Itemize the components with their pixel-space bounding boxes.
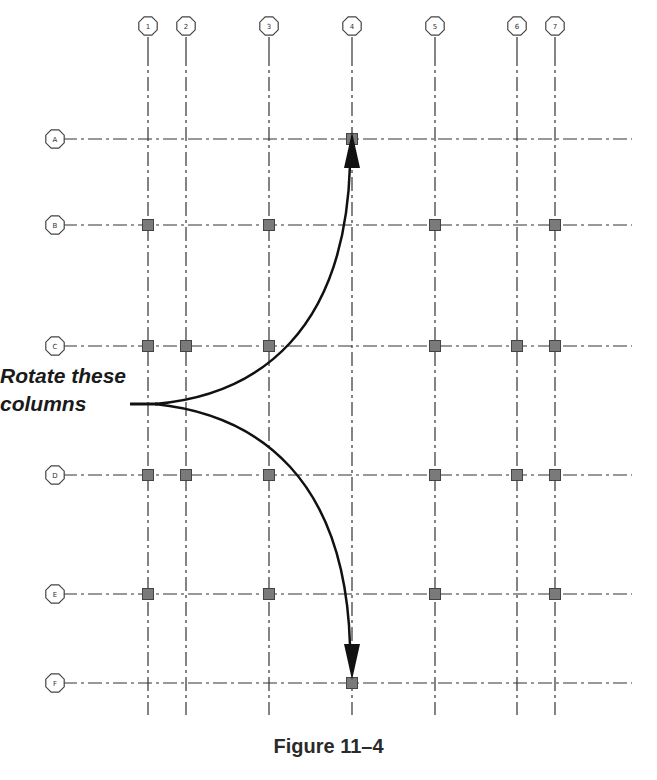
grid-bubble-label: E xyxy=(53,591,57,599)
structural-column-C3 xyxy=(264,341,275,352)
grid-bubble-label: 7 xyxy=(553,23,557,31)
structural-column-B7 xyxy=(550,220,561,231)
grid-bubble-label: D xyxy=(52,472,57,480)
structural-column-E7 xyxy=(550,589,561,600)
structural-column-D3 xyxy=(264,470,275,481)
arrow-head-down-icon xyxy=(344,644,360,680)
structural-column-E5 xyxy=(430,589,441,600)
grid-bubble-label: 3 xyxy=(267,23,271,31)
arrow-lower-curve xyxy=(155,404,350,645)
structural-column-B3 xyxy=(264,220,275,231)
rotation-arrows xyxy=(130,132,360,680)
arrow-upper-curve xyxy=(155,165,350,404)
grid-bubble-label: A xyxy=(53,136,58,144)
grid-bubble-label: C xyxy=(53,343,58,351)
grid-bubble-label: 1 xyxy=(146,23,150,31)
grid-bubble-label: 4 xyxy=(350,23,355,31)
structural-column-B5 xyxy=(430,220,441,231)
grid-bubble-label: 6 xyxy=(515,23,520,31)
figure-caption: Figure 11–4 xyxy=(0,735,657,758)
structural-column-D7 xyxy=(550,470,561,481)
annotation-line-1: Rotate these xyxy=(0,364,126,387)
structural-column-D6 xyxy=(512,470,523,481)
structural-column-E3 xyxy=(264,589,275,600)
structural-column-C5 xyxy=(430,341,441,352)
structural-column-C2 xyxy=(181,341,192,352)
grid-diagram: 1234567ABCDEF Rotate these columns xyxy=(0,0,657,780)
grid-bubble-label: B xyxy=(53,222,58,230)
structural-column-D5 xyxy=(430,470,441,481)
structural-column-D1 xyxy=(143,470,154,481)
structural-column-E1 xyxy=(143,589,154,600)
grid-bubbles: 1234567ABCDEF xyxy=(46,17,564,692)
grid-bubble-label: 2 xyxy=(184,23,188,31)
annotation-line-2: columns xyxy=(0,392,86,415)
structural-column-D2 xyxy=(181,470,192,481)
grid-bubble-label: 5 xyxy=(433,23,437,31)
grid-bubble-label: F xyxy=(53,680,57,688)
structural-column-B1 xyxy=(143,220,154,231)
structural-column-C6 xyxy=(512,341,523,352)
structural-column-C7 xyxy=(550,341,561,352)
structural-column-C1 xyxy=(143,341,154,352)
